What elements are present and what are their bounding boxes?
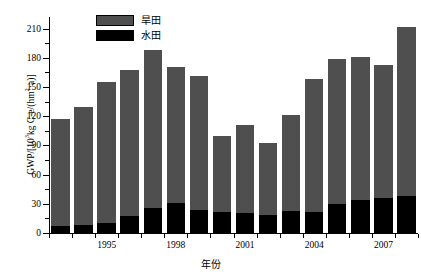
bar-segment-dry-field [120, 70, 138, 233]
legend-label-dry-field: 旱田 [141, 15, 161, 26]
bar-segment-paddy-field [190, 210, 208, 233]
bar-segment-dry-field [51, 119, 69, 233]
y-tick-label: 210 [15, 24, 41, 34]
y-tick-label: 180 [15, 53, 41, 63]
bar-segment-paddy-field [167, 203, 185, 233]
bar-1999 [190, 76, 208, 233]
x-tick [234, 234, 235, 238]
bar-1995 [97, 82, 115, 233]
bar-segment-paddy-field [51, 226, 69, 233]
bar-2006 [351, 57, 369, 233]
bar-1994 [74, 107, 92, 233]
bar-2004 [305, 79, 323, 233]
x-tick [326, 234, 327, 238]
bar-1993 [51, 119, 69, 233]
legend-item-paddy-field: 水田 [96, 29, 161, 42]
x-tick [257, 234, 258, 238]
x-tick [418, 234, 419, 238]
bar-2002 [259, 143, 277, 233]
y-tick-label: 0 [15, 229, 41, 239]
bar-segment-paddy-field [213, 212, 231, 233]
bar-segment-dry-field [305, 79, 323, 233]
y-tick-label: 90 [15, 141, 41, 151]
x-tick [372, 234, 373, 238]
x-tick [72, 234, 73, 238]
bar-2000 [213, 136, 231, 233]
bar-segment-dry-field [144, 50, 162, 233]
bar-segment-paddy-field [374, 198, 392, 233]
bar-segment-dry-field [74, 107, 92, 233]
bar-2001 [236, 125, 254, 233]
x-tick [280, 234, 281, 238]
y-axis-title-exponent: 3 [23, 135, 30, 138]
x-tick [164, 234, 165, 238]
x-tick-label: 1998 [156, 240, 196, 250]
bar-2003 [282, 115, 300, 233]
x-tick-label: 1995 [87, 240, 127, 250]
bar-segment-paddy-field [236, 213, 254, 233]
y-axis-title: GWP/[103kg C-e/(hm2·a)] [22, 40, 35, 210]
y-tick-label: 60 [15, 170, 41, 180]
bar-segment-paddy-field [97, 223, 115, 233]
legend-swatch-paddy-field [96, 30, 134, 41]
x-tick [349, 234, 350, 238]
x-tick-label: 2007 [363, 240, 403, 250]
bar-1997 [144, 50, 162, 233]
bar-2008 [397, 27, 415, 233]
y-tick-label: 120 [15, 112, 41, 122]
bar-2005 [328, 59, 346, 233]
bar-segment-paddy-field [74, 225, 92, 233]
x-tick [118, 234, 119, 238]
bar-segment-paddy-field [282, 211, 300, 233]
legend: 旱田 水田 [96, 14, 161, 44]
bar-segment-paddy-field [397, 196, 415, 233]
x-tick [49, 234, 50, 238]
x-tick [395, 234, 396, 238]
bar-1996 [120, 70, 138, 233]
bar-segment-dry-field [97, 82, 115, 233]
x-axis-title: 年份 [0, 256, 421, 271]
x-tick-label: 2004 [294, 240, 334, 250]
legend-item-dry-field: 旱田 [96, 14, 161, 27]
x-tick [95, 234, 96, 238]
bar-segment-paddy-field [144, 208, 162, 233]
y-tick-label: 150 [15, 83, 41, 93]
legend-label-paddy-field: 水田 [141, 30, 161, 41]
bar-segment-paddy-field [120, 216, 138, 233]
x-tick [187, 234, 188, 238]
bar-2007 [374, 65, 392, 233]
chart-figure: GWP/[103kg C-e/(hm2·a)] 0306090120150180… [0, 0, 421, 279]
bars-container [49, 17, 418, 233]
bar-1998 [167, 67, 185, 233]
x-tick [303, 234, 304, 238]
bar-segment-paddy-field [259, 215, 277, 233]
bar-segment-paddy-field [328, 204, 346, 233]
bar-segment-paddy-field [351, 200, 369, 233]
x-tick [210, 234, 211, 238]
x-tick-label: 2001 [225, 240, 265, 250]
legend-swatch-dry-field [96, 15, 134, 26]
bar-segment-paddy-field [305, 212, 323, 233]
x-tick [141, 234, 142, 238]
y-tick-label: 30 [15, 199, 41, 209]
